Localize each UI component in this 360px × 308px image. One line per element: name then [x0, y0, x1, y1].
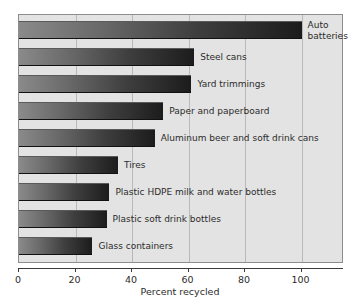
- bar[interactable]: [19, 210, 107, 228]
- x-tick-60: [188, 268, 189, 272]
- bar-label: Plastic HDPE milk and water bottles: [109, 187, 276, 198]
- bar[interactable]: [19, 75, 191, 93]
- bar-label: Plastic soft drink bottles: [107, 214, 221, 225]
- bar-label: Auto batteries: [302, 20, 360, 41]
- x-tick-80: [244, 268, 245, 272]
- bar-row: Tires: [19, 156, 344, 174]
- bar-label: Paper and paperboard: [163, 106, 269, 117]
- recycling-bar-chart: Auto batteriesSteel cansYard trimmingsPa…: [0, 0, 360, 308]
- bar-row: Yard trimmings: [19, 75, 344, 93]
- bar[interactable]: [19, 48, 194, 66]
- bars-layer: Auto batteriesSteel cansYard trimmingsPa…: [19, 15, 342, 262]
- x-tick-20: [75, 268, 76, 272]
- bar-row: Steel cans: [19, 48, 344, 66]
- bar-label: Glass containers: [92, 241, 173, 252]
- x-tick-label: 80: [238, 274, 250, 285]
- bar[interactable]: [19, 102, 163, 120]
- x-axis-line: [18, 268, 343, 269]
- bar[interactable]: [19, 21, 302, 39]
- bar-row: Auto batteries: [19, 21, 344, 39]
- x-tick-0: [18, 268, 19, 272]
- x-tick-label: 100: [292, 274, 310, 285]
- x-tick-label: 60: [182, 274, 194, 285]
- bar[interactable]: [19, 129, 155, 147]
- bar[interactable]: [19, 237, 92, 255]
- bar-row: Plastic soft drink bottles: [19, 210, 344, 228]
- bar[interactable]: [19, 183, 109, 201]
- x-tick-label: 0: [15, 274, 21, 285]
- plot-area: Auto batteriesSteel cansYard trimmingsPa…: [18, 14, 343, 263]
- bar-row: Glass containers: [19, 237, 344, 255]
- x-tick-label: 20: [68, 274, 80, 285]
- bar-label: Yard trimmings: [191, 79, 265, 90]
- bar-label: Aluminum beer and soft drink cans: [155, 133, 319, 144]
- x-tick-40: [131, 268, 132, 272]
- bar[interactable]: [19, 156, 118, 174]
- bar-label: Tires: [118, 160, 145, 171]
- bar-row: Aluminum beer and soft drink cans: [19, 129, 344, 147]
- x-tick-label: 40: [125, 274, 137, 285]
- x-tick-100: [301, 268, 302, 272]
- bar-row: Plastic HDPE milk and water bottles: [19, 183, 344, 201]
- bar-label: Steel cans: [194, 52, 247, 63]
- x-axis-title: Percent recycled: [0, 286, 360, 297]
- bar-row: Paper and paperboard: [19, 102, 344, 120]
